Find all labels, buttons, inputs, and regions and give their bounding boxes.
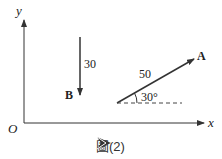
y-axis-label: y [14, 3, 22, 18]
angle-arc [135, 93, 138, 103]
origin-label: O [8, 121, 18, 136]
arrow-pointer-icon [96, 136, 112, 150]
vector-a-magnitude: 50 [139, 67, 151, 81]
vector-b-magnitude: 30 [84, 57, 96, 71]
vector-b-label: B [65, 88, 73, 102]
vector-a-label: A [197, 49, 206, 63]
x-axis-label: x [207, 115, 214, 130]
figure-caption: 圖(2) [96, 136, 125, 155]
angle-label: 30° [141, 90, 158, 104]
